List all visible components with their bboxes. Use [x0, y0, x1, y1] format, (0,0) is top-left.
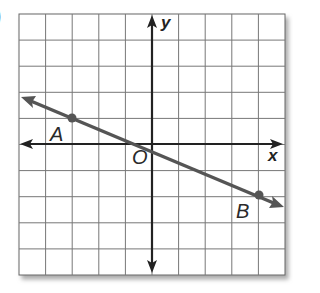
point-b: [255, 191, 264, 200]
origin-label: O: [132, 146, 148, 169]
x-axis-label: x: [268, 146, 277, 166]
point-b-label: B: [236, 200, 249, 223]
y-axis-label: y: [161, 13, 170, 33]
point-a-label: A: [50, 123, 63, 146]
point-a: [68, 114, 77, 123]
